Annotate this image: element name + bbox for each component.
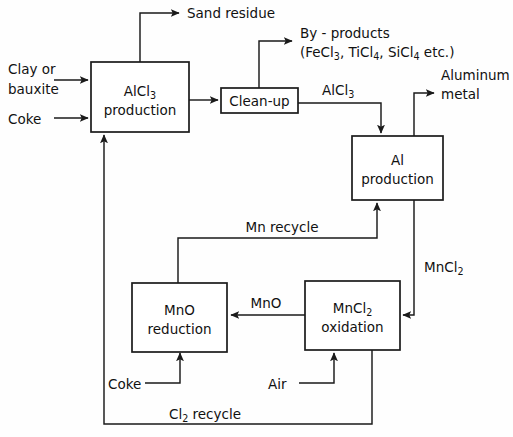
connector-mn-recycle — [178, 203, 377, 283]
box-clean-up[interactable]: Clean-up — [221, 88, 298, 113]
box-mncl2-oxidation-label-line2: oxidation — [321, 319, 383, 335]
box-al-production-label-line2: production — [361, 171, 434, 187]
label-bauxite: bauxite — [8, 81, 59, 97]
connector-al-production-to-mncl2-oxidation — [403, 200, 414, 315]
label-clay-or: Clay or — [8, 61, 56, 77]
label-coke-top: Coke — [8, 111, 41, 127]
connector-cleanup-to-byproducts — [259, 41, 292, 88]
connector-coke-to-mno-reduction — [145, 353, 180, 383]
label-mncl2-stream: MnCl2 — [424, 259, 464, 277]
label-by-products: By - products — [300, 25, 390, 41]
box-alcl3-production-label-line2: production — [104, 102, 177, 118]
label-cl2-recycle: Cl2 recycle — [169, 406, 241, 424]
box-mno-reduction-label-line2: reduction — [148, 321, 212, 337]
box-al-production-label-line1: Al — [391, 152, 404, 168]
label-alcl3-stream: AlCl3 — [322, 82, 354, 100]
connector-cleanup-to-al-production — [298, 103, 381, 133]
box-mno-reduction[interactable]: MnO reduction — [132, 283, 227, 352]
box-al-production[interactable]: Al production — [352, 136, 443, 200]
connector-al-production-to-aluminum-metal — [414, 93, 434, 136]
label-metal: metal — [441, 86, 480, 102]
connector-air-to-mncl2-oxidation — [299, 353, 334, 383]
label-coke-bottom: Coke — [108, 376, 141, 392]
box-clean-up-label: Clean-up — [229, 93, 289, 109]
box-alcl3-production[interactable]: AlCl3 production — [91, 62, 189, 132]
label-mno-stream: MnO — [251, 295, 282, 311]
label-air: Air — [268, 376, 287, 392]
flow-diagram-canvas: AlCl3 production Clean-up Al production … — [0, 0, 513, 437]
box-al-production-rect — [352, 136, 443, 200]
process-flow-diagram: AlCl3 production Clean-up Al production … — [0, 0, 513, 437]
connector-cl2-recycle — [104, 135, 372, 424]
label-aluminum: Aluminum — [441, 67, 510, 83]
label-by-products-formula: (FeCl3, TiCl4, SiCl4 etc.) — [300, 44, 454, 62]
connector-alcl3-to-sand-residue — [140, 13, 179, 62]
label-mn-recycle: Mn recycle — [246, 219, 319, 235]
label-sand-residue: Sand residue — [187, 5, 275, 21]
box-mncl2-oxidation[interactable]: MnCl2 oxidation — [305, 281, 400, 350]
box-mno-reduction-label-line1: MnO — [164, 302, 195, 318]
